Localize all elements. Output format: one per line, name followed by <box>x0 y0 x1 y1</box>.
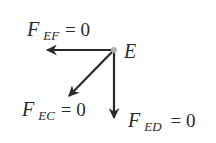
force-ef-label: F EF = 0 <box>26 18 90 43</box>
joint-e-node <box>111 47 117 53</box>
svg-text:F EC = 0: F EC = 0 <box>21 98 86 123</box>
force-ef-subscript: EF <box>42 28 60 43</box>
force-ec-arrow <box>69 51 113 96</box>
force-ef-value: = 0 <box>65 19 90 40</box>
force-ec-subscript: EC <box>37 108 55 123</box>
joint-label: E <box>123 40 136 62</box>
force-ef-symbol: F <box>26 18 40 40</box>
force-ed-value: = 0 <box>171 110 196 131</box>
force-ec-label: F EC = 0 <box>21 98 86 123</box>
free-body-diagram: E F EF = 0 F EC = 0 F ED = 0 <box>0 0 216 143</box>
force-ed-label: F ED = 0 <box>127 109 196 134</box>
force-ec-symbol: F <box>21 98 35 120</box>
force-ec-value: = 0 <box>61 99 86 120</box>
force-ed-subscript: ED <box>143 119 162 134</box>
svg-text:F EF = 0: F EF = 0 <box>26 18 90 43</box>
force-ed-symbol: F <box>127 109 141 131</box>
svg-text:F ED = 0: F ED = 0 <box>127 109 196 134</box>
